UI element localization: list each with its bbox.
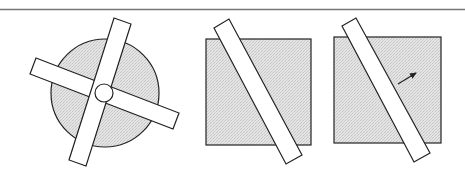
- center-circle: [95, 84, 113, 102]
- diagram-svg: [0, 0, 465, 177]
- panel-2-square-with-strip: [206, 19, 311, 164]
- diagram-canvas: [0, 0, 465, 177]
- panel-1-circle-with-crossed-strips: [30, 18, 179, 166]
- panel-3-square-with-strip-and-arrow: [334, 18, 441, 162]
